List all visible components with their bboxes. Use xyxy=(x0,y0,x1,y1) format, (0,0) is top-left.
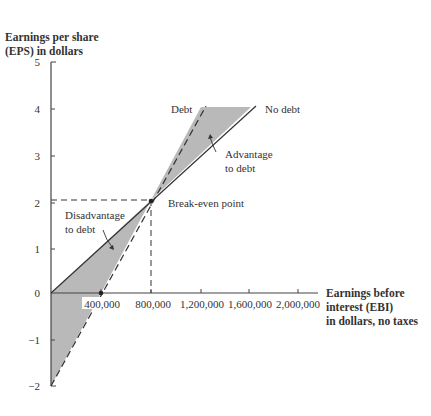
advantage-label-line1: Advantage xyxy=(225,148,273,160)
y-axis-title-line1: Earnings per share xyxy=(5,31,99,44)
break-even-label: Break-even point xyxy=(168,197,244,209)
y-tick-labels: 5 4 3 2 1 0 −1 −2 xyxy=(28,56,40,392)
advantage-label-line2: to debt xyxy=(225,162,255,174)
svg-text:1: 1 xyxy=(35,243,41,255)
disadvantage-label-line2: to debt xyxy=(65,223,95,235)
svg-text:400,000: 400,000 xyxy=(84,298,120,310)
svg-text:−1: −1 xyxy=(28,334,40,346)
svg-text:−2: −2 xyxy=(28,380,40,392)
x-axis-title-line1: Earnings before xyxy=(326,287,405,300)
break-even-point xyxy=(149,199,154,204)
svg-text:1,200,000: 1,200,000 xyxy=(180,298,225,310)
y-axis-title-line2: (EPS) in dollars xyxy=(5,45,83,58)
svg-text:4: 4 xyxy=(35,103,41,115)
debt-zero-crossing xyxy=(99,291,104,296)
x-axis-title-line2: interest (EBI) xyxy=(326,301,393,314)
svg-text:0: 0 xyxy=(35,287,41,299)
x-tick-labels: 400,000 800,000 1,200,000 1,600,000 2,00… xyxy=(82,297,321,310)
svg-text:800,000: 800,000 xyxy=(135,298,171,310)
debt-label: Debt xyxy=(171,103,192,115)
eps-ebi-chart: Earnings per share (EPS) in dollars Earn… xyxy=(0,0,431,416)
svg-text:5: 5 xyxy=(35,56,41,68)
svg-text:3: 3 xyxy=(35,150,41,162)
disadvantage-label-line1: Disadvantage xyxy=(65,209,125,221)
x-axis-title-line3: in dollars, no taxes xyxy=(326,315,419,327)
svg-text:2: 2 xyxy=(35,197,41,209)
no-debt-label: No debt xyxy=(265,103,300,115)
svg-text:1,600,000: 1,600,000 xyxy=(228,298,273,310)
svg-text:2,000,000: 2,000,000 xyxy=(276,298,321,310)
